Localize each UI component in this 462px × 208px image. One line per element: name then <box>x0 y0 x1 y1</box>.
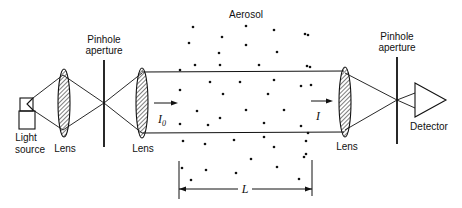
lens-1-label: Lens <box>54 143 76 154</box>
detector-label: Detector <box>410 121 448 132</box>
lens-2-label: Lens <box>132 143 154 154</box>
path-length-label: L <box>241 182 249 196</box>
light-source-label-2: source <box>15 144 45 155</box>
aerosol-particles <box>179 25 313 182</box>
incident-intensity-label: I0 <box>157 112 166 128</box>
pinhole-right-label-2: aperture <box>378 42 416 53</box>
lens-3-label: Lens <box>336 141 358 152</box>
lens-2-icon <box>136 68 148 138</box>
lens-1-icon <box>58 69 70 137</box>
light-source-label-1: Light <box>15 132 37 143</box>
pinhole-left-label-2: aperture <box>85 45 123 56</box>
light-rays-input <box>33 73 142 133</box>
pinhole-left-label-1: Pinhole <box>87 34 121 45</box>
detector-icon <box>415 83 446 117</box>
light-rays-output <box>345 73 415 130</box>
aerosol-extinction-diagram: Light source Lens Pinhole aperture Lens … <box>0 0 462 208</box>
lens-3-icon <box>339 67 351 137</box>
aerosol-label: Aerosol <box>229 9 263 20</box>
incident-intensity-arrow <box>154 101 178 106</box>
transmitted-intensity-arrow <box>311 99 333 104</box>
pinhole-right-label-1: Pinhole <box>380 31 414 42</box>
light-source-icon <box>19 98 35 129</box>
transmitted-intensity-label: I <box>315 109 321 123</box>
